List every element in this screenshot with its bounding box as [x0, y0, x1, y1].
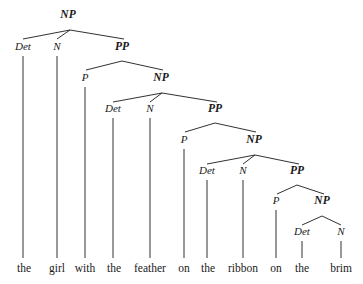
leaf-word-w2: girl — [49, 262, 65, 275]
tree-branch-np3-pp3 — [255, 155, 299, 164]
leaf-word-w11: brim — [330, 262, 352, 274]
leaf-word-layer: thegirlwiththefeatherontheribbononthebri… — [17, 262, 352, 275]
node-label-pp2: PP — [208, 102, 223, 114]
tree-branch-np1-pp1 — [70, 30, 124, 39]
node-label-np2: NP — [152, 71, 169, 83]
node-label-det2: Det — [104, 102, 122, 114]
leaf-word-w9: on — [270, 262, 282, 274]
node-label-n3: N — [238, 164, 247, 176]
tree-branch-pp1-p1 — [86, 61, 122, 70]
leaf-word-w5: feather — [134, 262, 166, 274]
syntax-tree-figure: NPDetNPPPNPDetNPPPNPDetNPPPNPDetN thegir… — [0, 0, 363, 284]
node-label-p2: P — [180, 133, 188, 145]
node-label-det4: Det — [293, 225, 311, 237]
leaf-word-w7: the — [201, 262, 215, 274]
branch-layer — [23, 30, 341, 225]
node-label-np4: NP — [313, 194, 330, 206]
leaf-word-w3: with — [75, 262, 96, 274]
leaf-word-w8: ribbon — [228, 262, 258, 274]
tree-branch-np4-det4 — [302, 216, 322, 225]
tree-branch-pp3-np4 — [297, 185, 324, 194]
node-label-n2: N — [145, 102, 154, 114]
tree-branch-pp2-np3 — [215, 123, 256, 132]
leaf-word-w4: the — [107, 262, 121, 274]
node-label-np1: NP — [59, 8, 76, 20]
tree-branch-pp2-p2 — [185, 123, 215, 132]
node-label-n4: N — [336, 225, 345, 237]
leaf-word-w10: the — [295, 262, 309, 274]
node-label-det3: Det — [198, 164, 216, 176]
tree-branch-np2-pp2 — [162, 93, 217, 102]
node-label-np3: NP — [245, 133, 262, 145]
node-label-p3: P — [272, 194, 280, 206]
node-label-n1: N — [52, 40, 61, 52]
node-label-pp3: PP — [290, 164, 305, 176]
node-label-p1: P — [81, 71, 89, 83]
node-label-pp1: PP — [115, 40, 130, 52]
node-label-det1: Det — [14, 40, 32, 52]
tree-canvas: NPDetNPPPNPDetNPPPNPDetNPPPNPDetN thegir… — [0, 0, 363, 284]
tree-branch-pp3-p3 — [277, 185, 297, 194]
tree-branch-np4-n4 — [322, 216, 341, 225]
tree-branch-np3-det3 — [207, 155, 255, 164]
tree-branch-pp1-np2 — [122, 61, 163, 70]
leaf-word-w1: the — [17, 262, 31, 274]
node-label-layer: NPDetNPPPNPDetNPPPNPDetNPPPNPDetN — [14, 8, 345, 237]
tree-branch-np2-det2 — [113, 93, 162, 102]
leaf-word-w6: on — [178, 262, 190, 274]
